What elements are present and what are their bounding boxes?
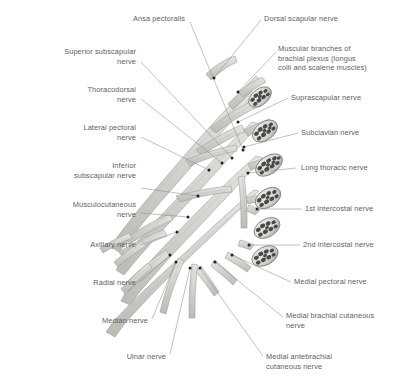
- cross-section-root-t1: [250, 213, 283, 243]
- label-second-intercostal-nerve[interactable]: 2nd intercostal nerve: [303, 240, 399, 250]
- label-inferior-subscapular-nerve[interactable]: Inferior subscapular nerve: [16, 161, 136, 180]
- label-first-intercostal-nerve[interactable]: 1st intercostal nerve: [305, 204, 399, 214]
- leader-marker-medial-pectoral-nerve: [231, 254, 234, 257]
- label-axillary-nerve[interactable]: Axillary nerve: [38, 240, 136, 250]
- leader-marker-medial-brachial-cutaneous-nerve: [214, 261, 217, 264]
- label-suprascapular-nerve[interactable]: Suprascapular nerve: [291, 93, 399, 103]
- leader-marker-ansa-pectoralis: [242, 149, 245, 152]
- leader-marker-radial-nerve: [169, 254, 172, 257]
- leader-marker-subclavian-nerve: [243, 146, 246, 149]
- label-musculocutaneous-nerve[interactable]: Musculocutaneous nerve: [14, 200, 136, 219]
- cross-section-root-c6: [248, 115, 281, 146]
- cross-section-root-c7: [252, 149, 287, 181]
- label-medial-brachial-cutaneous-nerve[interactable]: Medial brachial cutaneous nerve: [286, 311, 399, 330]
- leader-marker-ulnar-nerve: [189, 267, 192, 270]
- leader-marker-superior-subscapular-nerve: [231, 157, 234, 160]
- label-subclavian-nerve[interactable]: Subclavian nerve: [301, 128, 399, 138]
- label-ansa-pectoralis[interactable]: Ansa pectoralis: [60, 14, 185, 24]
- label-lateral-pectoral-nerve[interactable]: Lateral pectoral nerve: [25, 123, 136, 142]
- label-superior-subscapular-nerve[interactable]: Superior subscapular nerve: [18, 47, 136, 66]
- leader-marker-suprascapular-nerve: [237, 121, 240, 124]
- leader-marker-second-intercostal-nerve: [248, 244, 251, 247]
- label-radial-nerve[interactable]: Radial nerve: [44, 278, 136, 288]
- leader-line-medial-brachial-cutaneous-nerve: [215, 262, 283, 317]
- label-muscular-branches[interactable]: Muscular branches of brachial plexus (lo…: [278, 44, 398, 73]
- leader-marker-median-nerve: [175, 261, 178, 264]
- leader-marker-thoracodorsal-nerve: [221, 162, 224, 165]
- leader-marker-lateral-pectoral-nerve: [208, 169, 211, 172]
- label-medial-antebrachial-cutaneous-nerve[interactable]: Medial antebrachial cutaneous nerve: [266, 352, 386, 371]
- leader-marker-axillary-nerve: [176, 231, 179, 234]
- leader-marker-dorsal-scapular-nerve: [213, 77, 216, 80]
- label-ulnar-nerve[interactable]: Ulnar nerve: [78, 352, 166, 362]
- leader-marker-medial-antebrachial-cutaneous-nerve: [199, 267, 202, 270]
- leader-line-dorsal-scapular-nerve: [214, 20, 261, 78]
- label-median-nerve[interactable]: Median nerve: [52, 316, 148, 326]
- label-long-thoracic-nerve[interactable]: Long thoracic nerve: [301, 163, 399, 173]
- label-thoracodorsal-nerve[interactable]: Thoracodorsal nerve: [30, 85, 136, 104]
- label-dorsal-scapular-nerve[interactable]: Dorsal scapular nerve: [264, 14, 396, 24]
- leader-marker-first-intercostal-nerve: [256, 208, 259, 211]
- leader-marker-inferior-subscapular-nerve: [197, 195, 200, 198]
- leader-marker-long-thoracic-nerve: [247, 172, 250, 175]
- label-medial-pectoral-nerve[interactable]: Medial pectoral nerve: [294, 277, 399, 287]
- diagram-canvas: Ansa pectoralisSuperior subscapular nerv…: [0, 0, 399, 384]
- leader-marker-musculocutaneous-nerve: [187, 216, 190, 219]
- leader-marker-muscular-branches: [237, 91, 240, 94]
- nerve-root-cross-sections: [245, 83, 287, 271]
